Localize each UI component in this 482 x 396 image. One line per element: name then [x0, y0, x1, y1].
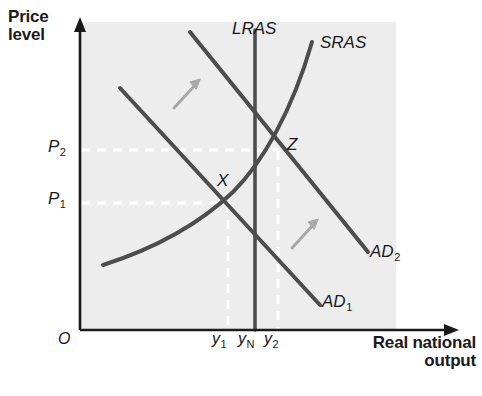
- ad-as-diagram: Pricelevel Real nationaloutput O LRAS SR…: [0, 0, 482, 396]
- x-tick-label-y2-subscript: 2: [273, 338, 279, 350]
- x-tick-label-y2-text: y: [264, 330, 272, 347]
- curve-label-ad2-text: AD: [370, 242, 394, 261]
- curve-label-ad2-subscript: 2: [394, 251, 400, 263]
- x-tick-label-y1-subscript: 1: [221, 338, 227, 350]
- curve-label-ad1: AD1: [322, 293, 352, 311]
- x-axis-label-line1: Real national: [373, 333, 476, 352]
- y-axis-label-line1: Price: [8, 7, 49, 26]
- x-tick-label-y1-text: y: [212, 330, 220, 347]
- x-tick-label-yn-subscript: N: [247, 338, 255, 350]
- curve-label-ad2: AD2: [370, 243, 400, 261]
- y-axis-label: Pricelevel: [8, 8, 49, 45]
- y-tick-label-p2: P2: [48, 138, 65, 156]
- x-axis-label-line2: output: [424, 351, 476, 370]
- x-tick-label-yn: yN: [238, 330, 254, 347]
- x-axis-label: Real nationaloutput: [373, 334, 476, 371]
- x-tick-label-yn-text: y: [238, 330, 246, 347]
- x-tick-label-y2: y2: [264, 330, 278, 347]
- curve-label-ad1-text: AD: [322, 292, 346, 311]
- y-tick-label-p2-text: P: [48, 137, 59, 156]
- y-tick-label-p2-subscript: 2: [60, 146, 66, 158]
- x-tick-label-y1: y1: [212, 330, 226, 347]
- y-tick-label-p1-text: P: [48, 189, 59, 208]
- point-label-x: X: [217, 172, 228, 190]
- curve-label-sras: SRAS: [320, 34, 366, 52]
- y-tick-label-p1-subscript: 1: [60, 198, 66, 210]
- curve-label-ad1-subscript: 1: [346, 301, 352, 313]
- plot-background: [80, 22, 396, 330]
- origin-label: O: [58, 330, 70, 347]
- y-axis-label-line2: level: [8, 25, 45, 44]
- y-tick-label-p1: P1: [48, 190, 65, 208]
- point-label-z: Z: [287, 136, 297, 154]
- curve-label-lras: LRAS: [232, 20, 276, 38]
